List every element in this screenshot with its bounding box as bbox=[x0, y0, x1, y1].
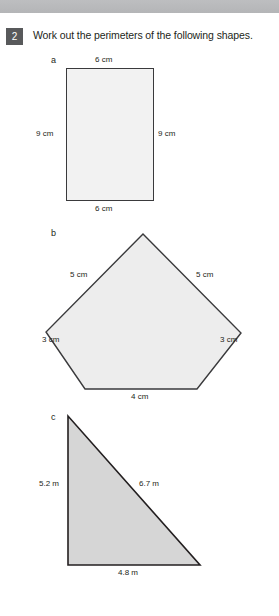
dimension-label-b-upper-right: 5 cm bbox=[196, 270, 213, 279]
worksheet-page: 2 Work out the perimeters of the followi… bbox=[0, 0, 279, 616]
dimension-label-b-upper-left: 5 cm bbox=[70, 270, 87, 279]
triangle-outline bbox=[68, 416, 200, 565]
dimension-label-a-left: 9 cm bbox=[36, 129, 53, 138]
dimension-label-b-bottom: 4 cm bbox=[131, 392, 148, 401]
question-number-badge: 2 bbox=[6, 28, 23, 45]
question-text: Work out the perimeters of the following… bbox=[33, 28, 277, 43]
dimension-label-c-bottom: 4.8 m bbox=[118, 568, 138, 577]
part-label-a: a bbox=[51, 55, 56, 65]
shape-triangle-c bbox=[0, 405, 279, 580]
top-gray-band-gradient bbox=[0, 0, 279, 13]
dimension-label-a-bottom: 6 cm bbox=[95, 204, 112, 213]
dimension-label-b-lower-left: 3 cm bbox=[42, 335, 59, 344]
dimension-label-c-left: 5.2 m bbox=[39, 479, 59, 488]
dimension-label-a-top: 6 cm bbox=[95, 55, 112, 64]
shape-rectangle-a bbox=[66, 68, 154, 201]
top-gray-band bbox=[0, 0, 279, 13]
shape-pentagon-b bbox=[0, 225, 279, 395]
dimension-label-b-lower-right: 3 cm bbox=[220, 335, 237, 344]
pentagon-outline bbox=[46, 234, 241, 389]
dimension-label-a-right: 9 cm bbox=[158, 129, 175, 138]
dimension-label-c-hypotenuse: 6.7 m bbox=[139, 479, 159, 488]
